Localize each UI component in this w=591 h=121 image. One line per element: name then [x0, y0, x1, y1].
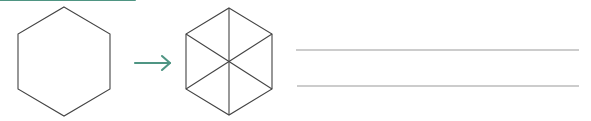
- writing-lines: [296, 50, 579, 86]
- diagram-canvas: [0, 0, 591, 121]
- source-hexagon: [18, 7, 110, 116]
- hexagon-outline: [18, 7, 110, 116]
- diagram-svg: [0, 0, 591, 121]
- result-hexagon: [186, 8, 272, 115]
- rightwards-arrow-icon: [0, 0, 170, 70]
